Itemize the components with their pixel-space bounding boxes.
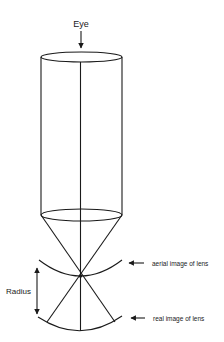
aerial-image-label: aerial image of lens xyxy=(152,260,209,268)
cylinder-tube xyxy=(41,52,122,221)
eye-label: Eye xyxy=(73,19,89,29)
cylinder-bottom-ellipse xyxy=(41,209,122,221)
optics-diagram: Eye Radius aerial image of lens real ima… xyxy=(0,0,224,342)
ray-right xyxy=(47,215,122,322)
cylinder-top-ellipse xyxy=(41,52,122,62)
radius-label: Radius xyxy=(6,287,31,296)
real-image-label: real image of lens xyxy=(153,315,205,323)
